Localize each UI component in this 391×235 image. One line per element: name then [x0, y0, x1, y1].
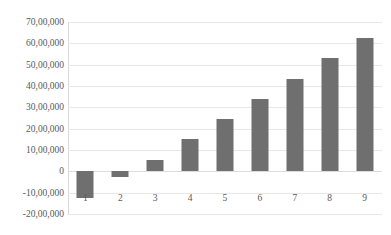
x-axis-tick-label: 1 — [83, 193, 88, 204]
y-axis: 70,00,00060,00,00050,00,00040,00,00030,0… — [0, 22, 64, 214]
bar[interactable] — [216, 119, 233, 172]
bar[interactable] — [251, 99, 268, 172]
bar-series: 123456789 — [68, 22, 382, 214]
bar-group: 9 — [347, 22, 382, 214]
x-axis-tick-label: 6 — [258, 193, 263, 204]
bar-group: 3 — [138, 22, 173, 214]
y-axis-tick-label: 30,00,000 — [0, 102, 64, 112]
bar[interactable] — [356, 38, 373, 171]
bar[interactable] — [147, 160, 164, 172]
gridline — [68, 214, 382, 215]
bar[interactable] — [112, 171, 129, 176]
bar-group: 8 — [312, 22, 347, 214]
y-axis-tick-label: 20,00,000 — [0, 124, 64, 134]
x-axis-tick-label: 8 — [327, 193, 332, 204]
y-axis-tick-label: 50,00,000 — [0, 60, 64, 70]
bar[interactable] — [321, 58, 338, 171]
bar-group: 4 — [173, 22, 208, 214]
bar[interactable] — [286, 79, 303, 172]
bar-chart: 70,00,00060,00,00050,00,00040,00,00030,0… — [0, 0, 391, 235]
bar-group: 6 — [242, 22, 277, 214]
x-axis-tick-label: 5 — [223, 193, 228, 204]
bar-group: 5 — [208, 22, 243, 214]
y-axis-tick-label: 60,00,000 — [0, 38, 64, 48]
x-axis-tick-label: 3 — [153, 193, 158, 204]
x-axis-tick-label: 7 — [292, 193, 297, 204]
bar[interactable] — [182, 139, 199, 172]
bar-group: 1 — [68, 22, 103, 214]
x-axis-tick-label: 2 — [118, 193, 123, 204]
x-axis-tick-label: 4 — [188, 193, 193, 204]
plot-area: 123456789 — [68, 22, 382, 214]
x-axis-tick-label: 9 — [362, 193, 367, 204]
y-axis-tick-label: 40,00,000 — [0, 81, 64, 91]
y-axis-tick-label: -20,00,000 — [0, 209, 64, 219]
y-axis-tick-label: 70,00,000 — [0, 17, 64, 27]
bar-group: 2 — [103, 22, 138, 214]
bar-group: 7 — [277, 22, 312, 214]
y-axis-tick-label: 10,00,000 — [0, 145, 64, 155]
y-axis-tick-label: 0 — [0, 166, 64, 176]
y-axis-tick-label: -10,00,000 — [0, 188, 64, 198]
